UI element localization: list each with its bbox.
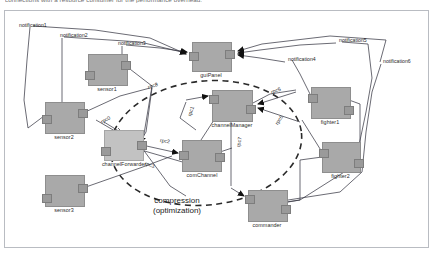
port-in[interactable]	[101, 147, 111, 156]
edge-label-notification1: notification1	[19, 22, 47, 28]
node-label-commander: commander	[244, 222, 290, 228]
node-fighter2[interactable]	[322, 142, 361, 173]
port-in[interactable]	[42, 115, 52, 124]
node-label-guipanel: guiPanel	[190, 72, 232, 78]
compression-annotation: compression (optimization)	[131, 196, 223, 216]
edge-label-notification6: notification6	[383, 58, 411, 64]
node-label-fighter2: fighter2	[322, 173, 359, 179]
node-fighter1[interactable]	[311, 87, 351, 119]
port-out[interactable]	[246, 105, 256, 114]
port-out[interactable]	[281, 205, 291, 214]
edge-label-rpc2: rpc2	[160, 137, 171, 144]
port-in[interactable]	[85, 71, 95, 80]
port-out[interactable]	[344, 106, 354, 115]
port-out[interactable]	[225, 50, 235, 59]
port-in[interactable]	[319, 149, 329, 158]
port-out[interactable]	[137, 141, 147, 150]
port-out[interactable]	[121, 61, 131, 70]
node-label-sensor1: sensor1	[88, 86, 126, 92]
diagram-figure: connections with a resource consumer for…	[0, 0, 433, 253]
node-label-channelmanager: channelManager	[201, 122, 263, 128]
edge-label-notification2: notification2	[60, 32, 88, 38]
port-in[interactable]	[189, 52, 199, 61]
compression-annotation-line1: compression	[131, 196, 223, 206]
port-in[interactable]	[42, 194, 52, 203]
port-out[interactable]	[354, 159, 364, 168]
node-guipanel[interactable]	[192, 42, 232, 72]
port-out[interactable]	[78, 109, 88, 118]
port-out[interactable]	[215, 153, 225, 162]
node-channelforwarder[interactable]	[104, 130, 144, 161]
edge-label-notification3: notification3	[118, 40, 146, 46]
node-sensor3[interactable]	[45, 175, 85, 207]
port-in[interactable]	[179, 151, 189, 160]
port-in[interactable]	[308, 94, 318, 103]
port-in[interactable]	[209, 95, 219, 104]
node-channelmanager[interactable]	[212, 90, 253, 122]
edge-label-notification4: notification4	[288, 56, 316, 62]
compression-annotation-line2: (optimization)	[131, 206, 223, 216]
node-label-sensor3: sensor3	[45, 207, 83, 213]
port-in[interactable]	[245, 195, 255, 204]
node-commander[interactable]	[248, 190, 288, 222]
node-sensor1[interactable]	[88, 54, 128, 86]
port-out[interactable]	[78, 184, 88, 193]
node-label-fighter1: fighter1	[311, 119, 349, 125]
node-label-sensor2: sensor2	[45, 134, 83, 140]
node-label-comchannel: comChannel	[177, 172, 227, 178]
edge-label-notification5: notification5	[339, 37, 367, 43]
node-sensor2[interactable]	[45, 102, 85, 134]
node-comchannel[interactable]	[182, 140, 222, 172]
